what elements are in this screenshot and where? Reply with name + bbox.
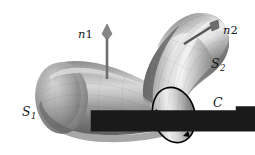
label-c: C (213, 97, 223, 110)
label-s1-base: S (22, 104, 31, 119)
figure-canvas: S1 S2 C n1 n2 (0, 0, 255, 155)
n1-arrowhead (102, 24, 112, 40)
label-c-base: C (213, 95, 223, 110)
label-s2-base: S (211, 56, 220, 71)
label-n2-wrap: n2 (223, 25, 238, 37)
label-s1-subscript: 1 (31, 111, 36, 121)
label-n2: n2 (223, 25, 238, 37)
label-n1: n1 (78, 29, 93, 41)
surface-illustration (0, 0, 255, 155)
label-n1-subscript: 1 (85, 27, 92, 41)
label-s2: S2 (211, 58, 225, 72)
label-s2-subscript: 2 (220, 63, 225, 73)
label-n2-subscript: 2 (230, 23, 237, 37)
label-n1-wrap: n1 (78, 29, 93, 41)
label-s1: S1 (22, 106, 36, 120)
